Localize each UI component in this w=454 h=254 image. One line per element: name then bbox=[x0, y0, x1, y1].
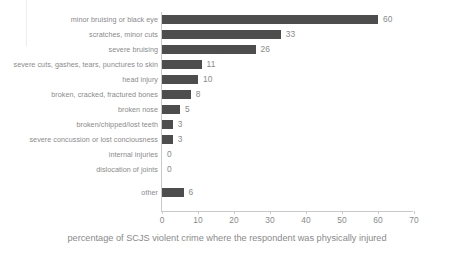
bar bbox=[162, 120, 173, 129]
bar-row: dislocation of joints0 bbox=[0, 162, 454, 177]
bar bbox=[162, 45, 256, 54]
bar-row: head injury10 bbox=[0, 72, 454, 87]
x-tick-label: 10 bbox=[183, 214, 213, 227]
category-label: scratches, minor cuts bbox=[0, 27, 158, 42]
category-label: broken/chipped/lost teeth bbox=[0, 117, 158, 132]
bar-row: broken nose5 bbox=[0, 102, 454, 117]
bar-value-label: 33 bbox=[286, 27, 295, 42]
bar-value-label: 11 bbox=[207, 57, 216, 72]
category-label: severe concussion or lost conciousness bbox=[0, 132, 158, 147]
plot-area: minor bruising or black eye60scratches, … bbox=[0, 0, 454, 254]
bar-value-label: 10 bbox=[203, 72, 212, 87]
category-label: internal injuries bbox=[0, 147, 158, 162]
category-label: severe bruising bbox=[0, 42, 158, 57]
bar-value-label: 0 bbox=[167, 147, 172, 162]
bar bbox=[162, 90, 191, 99]
bar-value-label: 3 bbox=[178, 132, 183, 147]
bar bbox=[162, 105, 180, 114]
bar-value-label: 3 bbox=[178, 117, 183, 132]
bar-value-label: 6 bbox=[189, 185, 194, 200]
x-tick-label: 50 bbox=[327, 214, 357, 227]
bar bbox=[162, 15, 378, 24]
category-label: dislocation of joints bbox=[0, 162, 158, 177]
x-tick-label: 20 bbox=[219, 214, 249, 227]
x-tick-label: 30 bbox=[255, 214, 285, 227]
bar-row: minor bruising or black eye60 bbox=[0, 12, 454, 27]
bar-row: severe cuts, gashes, tears, punctures to… bbox=[0, 57, 454, 72]
bar-value-label: 0 bbox=[167, 162, 172, 177]
x-tick-label: 60 bbox=[363, 214, 393, 227]
x-tick-label: 70 bbox=[399, 214, 429, 227]
category-label: head injury bbox=[0, 72, 158, 87]
bar bbox=[162, 60, 202, 69]
x-axis-caption: percentage of SCJS violent crime where t… bbox=[0, 233, 454, 243]
bar bbox=[162, 75, 198, 84]
bar-row: internal injuries0 bbox=[0, 147, 454, 162]
bar-row: broken/chipped/lost teeth3 bbox=[0, 117, 454, 132]
bar-row: broken, cracked, fractured bones8 bbox=[0, 87, 454, 102]
bar-value-label: 5 bbox=[185, 102, 190, 117]
bar-value-label: 26 bbox=[261, 42, 270, 57]
bar-chart: minor bruising or black eye60scratches, … bbox=[0, 0, 454, 254]
x-tick-label: 0 bbox=[147, 214, 177, 227]
bar-value-label: 60 bbox=[383, 12, 392, 27]
category-label: severe cuts, gashes, tears, punctures to… bbox=[0, 57, 158, 72]
bar bbox=[162, 30, 281, 39]
bar bbox=[162, 135, 173, 144]
x-tick-label: 40 bbox=[291, 214, 321, 227]
bar bbox=[162, 188, 184, 197]
category-label: broken nose bbox=[0, 102, 158, 117]
category-label: other bbox=[0, 185, 158, 200]
bar-row: severe concussion or lost conciousness3 bbox=[0, 132, 454, 147]
category-label: minor bruising or black eye bbox=[0, 12, 158, 27]
bar-row: scratches, minor cuts33 bbox=[0, 27, 454, 42]
bar-row: other6 bbox=[0, 185, 454, 200]
bar-value-label: 8 bbox=[196, 87, 201, 102]
bar-row: severe bruising26 bbox=[0, 42, 454, 57]
category-label: broken, cracked, fractured bones bbox=[0, 87, 158, 102]
